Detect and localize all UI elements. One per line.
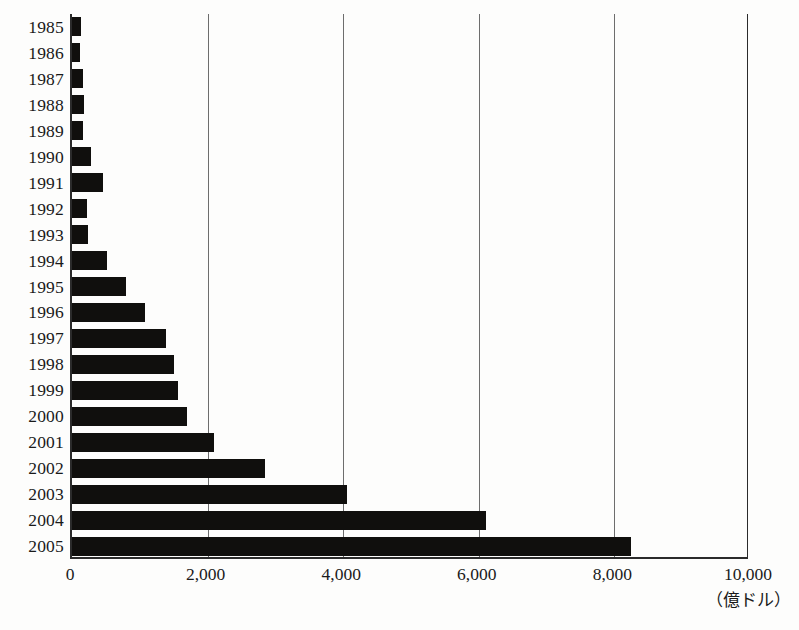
bar-1985 [72,17,81,36]
year-label-1990: 1990 [0,148,64,166]
year-label-2000: 2000 [0,407,64,425]
bar-2005 [72,537,631,556]
bar-1998 [72,355,174,374]
bar-1993 [72,225,88,244]
year-label-1995: 1995 [0,278,64,296]
bar-1989 [72,121,83,140]
year-label-1994: 1994 [0,252,64,270]
xtick-label-2000: 2,000 [186,563,225,585]
year-label-1986: 1986 [0,44,64,62]
year-label-1999: 1999 [0,381,64,399]
bar-2004 [72,511,486,530]
year-label-1997: 1997 [0,329,64,347]
year-label-2004: 2004 [0,511,64,529]
year-label-1989: 1989 [0,122,64,140]
year-label-2003: 2003 [0,485,64,503]
bars-layer [72,14,747,557]
year-label-2005: 2005 [0,537,64,555]
y-axis-category-labels: 1985198619871988198919901991199219931994… [0,14,64,559]
bar-1999 [72,381,178,400]
bar-1987 [72,69,83,88]
xtick-label-0: 0 [66,563,75,585]
axis-unit-note: （億ドル） [706,589,791,611]
bar-chart-figure: 1985198619871988198919901991199219931994… [0,0,799,630]
year-label-1988: 1988 [0,96,64,114]
year-label-1998: 1998 [0,355,64,373]
year-label-2002: 2002 [0,459,64,477]
bar-1995 [72,277,126,296]
xtick-label-6000: 6,000 [457,563,496,585]
bar-1991 [72,173,103,192]
bar-2000 [72,407,187,426]
xtick-label-8000: 8,000 [593,563,632,585]
year-label-1996: 1996 [0,303,64,321]
x-axis-tick-labels: 02,0004,0006,0008,00010,000 [0,563,799,591]
bar-1997 [72,329,166,348]
bar-2002 [72,459,265,478]
bar-2003 [72,485,347,504]
year-label-1992: 1992 [0,200,64,218]
year-label-1987: 1987 [0,70,64,88]
xtick-label-10000: 10,000 [724,563,772,585]
bar-1986 [72,43,80,62]
xtick-label-4000: 4,000 [322,563,361,585]
year-label-2001: 2001 [0,433,64,451]
bar-1996 [72,303,145,322]
plot-area [70,14,748,559]
year-label-1991: 1991 [0,174,64,192]
bar-1992 [72,199,87,218]
bar-1988 [72,95,84,114]
bar-2001 [72,433,214,452]
bar-1994 [72,251,107,270]
bar-1990 [72,147,91,166]
year-label-1985: 1985 [0,18,64,36]
year-label-1993: 1993 [0,226,64,244]
